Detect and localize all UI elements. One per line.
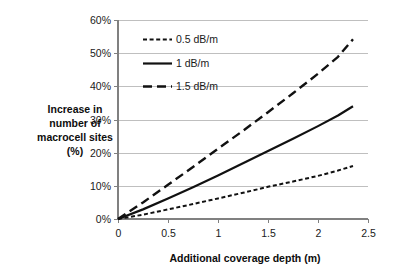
x-tick-label-3: 1.5 [261,227,276,239]
x-tick-label-5: 2.5 [361,227,376,239]
y-axis-title-line-2: number of [49,117,101,129]
x-tick-label-0: 0 [116,227,122,239]
y-tick-label-0: 0% [96,213,111,225]
y-axis-title-line-3: macrocell sites [37,131,113,143]
y-tick-label-20: 20% [90,147,111,159]
x-tick-label-2: 1 [216,227,222,239]
y-tick-label-60: 60% [90,14,111,26]
legend-label-2: 1.5 dB/m [176,80,218,92]
line-chart: 0%10%20%30%40%50%60% 00.511.522.5 0.5 dB… [0,0,398,276]
x-tick-label-1: 0.5 [161,227,176,239]
x-tick-label-4: 2 [316,227,322,239]
y-tick-label-50: 50% [90,47,111,59]
y-axis-title-line-4: (%) [67,145,83,157]
y-axis-title-line-1: Increase in [48,103,103,115]
y-tick-label-40: 40% [90,80,111,92]
chart-container: 0%10%20%30%40%50%60% 00.511.522.5 0.5 dB… [0,0,398,276]
legend-label-1: 1 dB/m [176,57,210,69]
legend-label-0: 0.5 dB/m [176,33,218,45]
y-tick-label-10: 10% [90,180,111,192]
x-axis-title: Additional coverage depth (m) [169,252,320,264]
